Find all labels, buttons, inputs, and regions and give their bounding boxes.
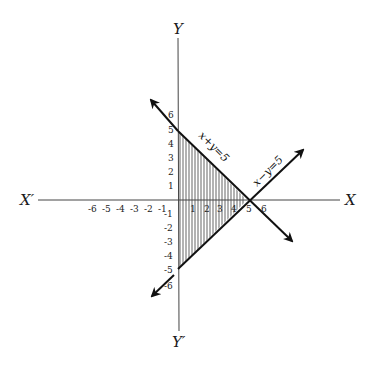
- line-x-plus-y-eq-5: [151, 100, 178, 131]
- x-tick-6: 6: [261, 204, 267, 214]
- x-axis-label: X: [344, 191, 357, 209]
- y-tick-2: 2: [168, 167, 174, 177]
- x-tick-neg5: -5: [102, 204, 111, 214]
- y-axis-label: Y: [173, 20, 185, 38]
- y-tick-neg4: -4: [164, 251, 173, 261]
- x-tick-5: 5: [246, 204, 252, 214]
- x-tick-2: 2: [204, 204, 210, 214]
- y-tick-6: 6: [168, 110, 174, 120]
- y-tick-4: 4: [168, 139, 174, 149]
- y-tick-neg2: -2: [164, 223, 173, 233]
- line-x-minus-y-eq-5: [178, 150, 303, 269]
- x-tick-neg4: -4: [116, 204, 125, 214]
- x-tick-neg1: -1: [158, 204, 167, 214]
- x-tick-neg6: -6: [88, 204, 97, 214]
- graph-figure: Y Y′ X′ X 6 5 4 3 2 1 -1 -2 -3 -4 -5 -6 …: [0, 0, 374, 365]
- y-axis: [178, 38, 179, 331]
- y-tick-5: 5: [168, 125, 174, 135]
- y-tick-1: 1: [168, 181, 174, 191]
- x-neg-axis-label: X′: [19, 191, 35, 209]
- x-tick-4: 4: [231, 204, 237, 214]
- x-tick-neg3: -3: [130, 204, 139, 214]
- y-neg-axis-label: Y′: [172, 333, 186, 351]
- x-tick-3: 3: [217, 204, 223, 214]
- x-tick-1: 1: [190, 204, 196, 214]
- y-tick-neg3: -3: [164, 237, 173, 247]
- y-tick-3: 3: [168, 153, 174, 163]
- y-tick-neg5: -5: [164, 265, 173, 275]
- y-tick-neg6: -6: [164, 281, 173, 291]
- x-tick-neg2: -2: [144, 204, 153, 214]
